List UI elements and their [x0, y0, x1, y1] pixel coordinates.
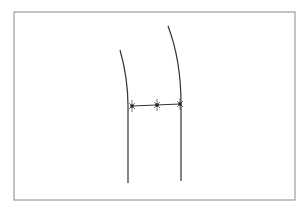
left-curve: [120, 50, 128, 183]
diagram-canvas: [0, 0, 305, 212]
frame-border: [14, 12, 295, 200]
markers-group: [129, 98, 183, 112]
